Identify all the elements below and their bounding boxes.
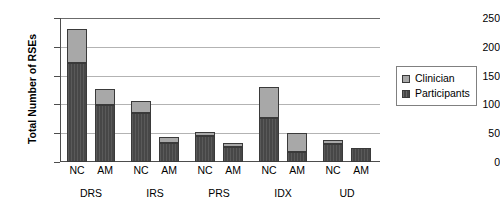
bar-idx-am[interactable] xyxy=(287,133,307,162)
y-tick-label-0: 0 xyxy=(456,157,500,168)
bar-irs-am[interactable] xyxy=(159,137,179,162)
bar-drs-am[interactable] xyxy=(95,89,115,162)
x-tick-label-drs-am: AM xyxy=(88,165,122,176)
bar-segment-participants xyxy=(259,118,279,162)
bar-segment-clinician xyxy=(131,101,151,113)
bar-series-container xyxy=(60,18,380,162)
chart-figure: Total Number of RSEs 250 200 150 100 50 … xyxy=(0,0,500,217)
bar-segment-clinician xyxy=(95,89,115,105)
y-tick-label-50: 50 xyxy=(456,128,500,139)
bar-prs-nc[interactable] xyxy=(195,132,215,162)
bar-segment-participants xyxy=(67,63,87,162)
x-group-label-idx: IDX xyxy=(253,188,313,199)
bar-segment-participants xyxy=(351,148,371,162)
x-tick-label-prs-am: AM xyxy=(216,165,250,176)
x-axis-group-labels: DRS IRS PRS IDX UD xyxy=(60,188,380,204)
x-tick-label-idx-am: AM xyxy=(280,165,314,176)
bar-segment-participants xyxy=(95,105,115,162)
bar-segment-clinician xyxy=(287,133,307,152)
chart-legend: Clinician Participants xyxy=(396,66,477,106)
x-tick-label-ud-am: AM xyxy=(344,165,378,176)
clinician-swatch-icon xyxy=(402,75,410,83)
legend-label-clinician: Clinician xyxy=(415,73,455,84)
bar-segment-participants xyxy=(131,113,151,162)
legend-label-participants: Participants xyxy=(415,88,470,99)
bar-segment-participants xyxy=(323,144,343,162)
bar-idx-nc[interactable] xyxy=(259,87,279,163)
bar-segment-participants xyxy=(287,152,307,162)
participants-swatch-icon xyxy=(402,90,410,98)
bar-segment-participants xyxy=(195,136,215,162)
y-tick-label-250: 250 xyxy=(456,13,500,24)
bar-segment-clinician xyxy=(67,29,87,63)
bar-ud-nc[interactable] xyxy=(323,140,343,162)
x-group-label-prs: PRS xyxy=(189,188,249,199)
bar-prs-am[interactable] xyxy=(223,143,243,162)
y-axis-title: Total Number of RSEs xyxy=(26,9,38,169)
bar-ud-am[interactable] xyxy=(351,148,371,162)
x-tick-label-irs-am: AM xyxy=(152,165,186,176)
legend-item-participants[interactable]: Participants xyxy=(402,86,470,101)
y-tick-mark-0 xyxy=(54,162,60,163)
bar-segment-clinician xyxy=(259,87,279,119)
y-tick-label-200: 200 xyxy=(456,42,500,53)
x-axis-tick-labels: NC AM NC AM NC AM NC AM NC AM xyxy=(60,165,380,181)
bar-irs-nc[interactable] xyxy=(131,101,151,162)
x-group-label-irs: IRS xyxy=(125,188,185,199)
bar-drs-nc[interactable] xyxy=(67,29,87,162)
x-group-label-ud: UD xyxy=(317,188,377,199)
x-group-label-drs: DRS xyxy=(61,188,121,199)
bar-segment-participants xyxy=(159,143,179,162)
legend-item-clinician[interactable]: Clinician xyxy=(402,71,470,86)
bar-segment-participants xyxy=(223,147,243,162)
